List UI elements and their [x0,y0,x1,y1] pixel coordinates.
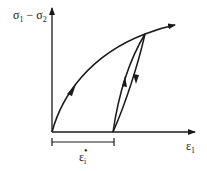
unloading-curve [113,34,145,132]
residual-strain-dimension [52,138,114,146]
stress-strain-diagram: σ1 − σ2 ε1 εi • [0,0,207,171]
x-axis-label: ε1 [186,139,195,155]
reloading-curve [113,34,145,132]
loading-curve [52,25,175,132]
y-axis-label: σ1 − σ2 [13,8,47,24]
unloading-arrow-icon [133,74,139,84]
loading-direction-arrow-icon [67,84,76,96]
residual-strain-dot: • [84,145,88,156]
reloading-arrow-icon [122,76,127,87]
